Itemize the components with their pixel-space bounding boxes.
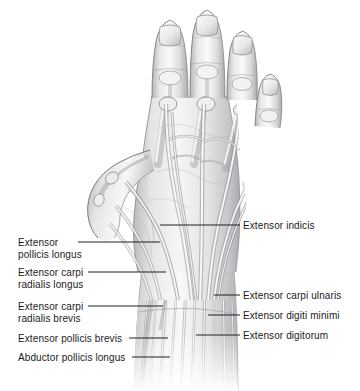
label-line: radialis brevis bbox=[18, 313, 83, 325]
label-line: pollicis longus bbox=[18, 249, 82, 261]
ring-finger bbox=[227, 31, 257, 100]
label-line: radialis longus bbox=[18, 279, 83, 291]
label-line: Extensor indicis bbox=[243, 220, 315, 232]
label-line: Extensor carpi bbox=[18, 301, 83, 313]
label-line: Extensor carpi bbox=[18, 267, 83, 279]
label-extensor-carpi-ulnaris: Extensor carpi ulnaris bbox=[243, 290, 341, 302]
index-finger bbox=[152, 20, 188, 98]
label-extensor-indicis: Extensor indicis bbox=[243, 220, 315, 232]
label-line: Extensor bbox=[18, 237, 82, 249]
label-extensor-carpi-radialis-brevis: Extensor carpiradialis brevis bbox=[18, 301, 83, 324]
label-line: Extensor digitorum bbox=[243, 330, 328, 342]
middle-finger bbox=[190, 10, 225, 98]
label-extensor-carpi-radialis-longus: Extensor carpiradialis longus bbox=[18, 267, 83, 290]
label-line: Extensor carpi ulnaris bbox=[243, 290, 341, 302]
label-abductor-pollicis-longus: Abductor pollicis longus bbox=[18, 352, 125, 364]
label-line: Extensor pollicis brevis bbox=[18, 333, 122, 345]
label-line: Abductor pollicis longus bbox=[18, 352, 125, 364]
label-extensor-digitorum: Extensor digitorum bbox=[243, 330, 328, 342]
label-extensor-digiti-minimi: Extensor digiti minimi bbox=[243, 310, 340, 322]
little-finger bbox=[255, 74, 282, 128]
label-extensor-pollicis-longus: Extensorpollicis longus bbox=[18, 237, 82, 260]
label-line: Extensor digiti minimi bbox=[243, 310, 340, 322]
label-extensor-pollicis-brevis: Extensor pollicis brevis bbox=[18, 333, 122, 345]
